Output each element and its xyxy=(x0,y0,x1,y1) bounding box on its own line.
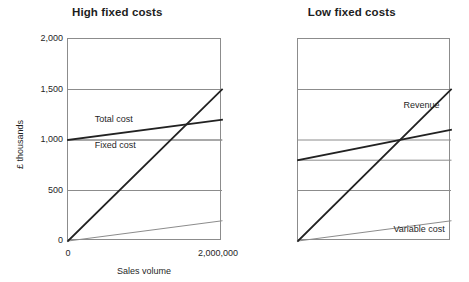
y-tick-label-500: 500 xyxy=(31,185,63,195)
chart-lines-0 xyxy=(68,39,222,241)
plot-area-low-fixed-costs xyxy=(297,38,450,240)
y-tick-label-1000: 1,000 xyxy=(31,134,63,144)
series-label-total-cost: Total cost xyxy=(95,114,133,124)
chart-panel-low-fixed-costs: Low fixed costs RevenueTotal costFixed c… xyxy=(235,0,469,282)
series-line-variable-cost xyxy=(68,221,222,241)
x-tick-label-1: 2,000,000 xyxy=(198,248,238,258)
x-axis-label: Sales volume xyxy=(117,266,171,276)
series-line-revenue xyxy=(298,90,451,242)
series-line-total-cost xyxy=(68,120,222,140)
y-tick-label-2000: 2,000 xyxy=(31,33,63,43)
series-label-variable-cost: Variable cost xyxy=(393,224,444,234)
y-tick-label-0: 0 xyxy=(31,235,63,245)
breakeven-charts-figure: High fixed costs RevenueTotal costFixed … xyxy=(0,0,469,282)
chart-lines-1 xyxy=(298,39,451,241)
chart-panel-high-fixed-costs: High fixed costs RevenueTotal costFixed … xyxy=(0,0,235,282)
series-line-total-cost xyxy=(298,130,451,160)
series-label-revenue: Revenue xyxy=(403,100,439,110)
chart-title-low-fixed-costs: Low fixed costs xyxy=(235,6,469,18)
plot-area-high-fixed-costs xyxy=(67,38,221,240)
x-tick-label-0: 0 xyxy=(65,248,70,258)
y-tick-label-1500: 1,500 xyxy=(31,84,63,94)
series-label-fixed-cost: Fixed cost xyxy=(95,140,136,150)
y-axis-label: £ thousands xyxy=(15,120,25,169)
chart-title-high-fixed-costs: High fixed costs xyxy=(0,6,235,18)
series-line-revenue xyxy=(68,90,222,242)
